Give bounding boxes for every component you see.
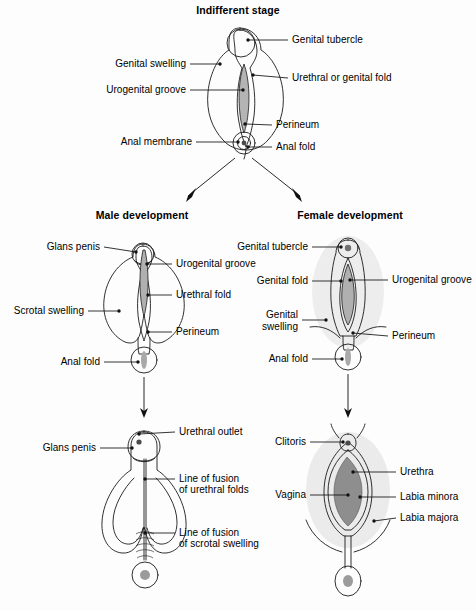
- label-labia-minora: Labia minora: [400, 491, 459, 502]
- raphe-hatching: [136, 532, 154, 558]
- label-line-fusion-scrotal-1: Line of fusion: [179, 527, 239, 538]
- male-urogenital-groove-shape: [140, 250, 148, 316]
- label-perineum: Perineum: [276, 119, 319, 130]
- label-female-anal-fold: Anal fold: [269, 353, 308, 364]
- diagram-canvas: Indifferent stage Genital tubercle: [0, 0, 476, 611]
- male-mature-annotations: Urethral outlet Glans penis Line of fusi…: [43, 426, 259, 549]
- branch-arrows: [186, 158, 302, 202]
- female-development-figure: [310, 236, 386, 370]
- label-female-urogenital-groove: Urogenital groove: [392, 274, 472, 285]
- label-male-perineum: Perineum: [176, 326, 219, 337]
- panel-title-male-development: Male development: [96, 209, 189, 221]
- label-female-genital-swelling-line1: Genital: [266, 309, 298, 320]
- label-female-genital-tubercle: Genital tubercle: [237, 241, 308, 252]
- male-development-figure: [104, 243, 185, 373]
- genital-tubercle-shape: [227, 29, 255, 57]
- female-mature-anus-core: [343, 575, 353, 587]
- label-male-urogenital-groove: Urogenital groove: [176, 258, 256, 269]
- panel-title-female-development: Female development: [297, 209, 403, 221]
- indifferent-stage-figure: [208, 28, 284, 159]
- clitoris-center: [345, 440, 350, 445]
- male-development-annotations: Glans penis Urogenital groove Urethral f…: [14, 241, 256, 367]
- label-labia-majora: Labia majora: [400, 512, 459, 523]
- label-line-fusion-scrotal-2: of scrotal swelling: [179, 538, 259, 549]
- label-female-genital-swelling-line2: swelling: [262, 321, 298, 332]
- label-clitoris: Clitoris: [275, 436, 306, 447]
- label-female-perineum: Perineum: [392, 330, 435, 341]
- label-line-fusion-urethral-1: Line of fusion: [179, 473, 239, 484]
- label-vagina: Vagina: [275, 489, 306, 500]
- label-anal-membrane: Anal membrane: [121, 136, 193, 147]
- male-mature-anus-core: [140, 570, 150, 580]
- label-male-urethral-fold: Urethral fold: [176, 289, 231, 300]
- label-female-genital-fold: Genital fold: [257, 275, 308, 286]
- label-mature-glans-penis: Glans penis: [43, 442, 96, 453]
- label-urogenital-groove: Urogenital groove: [106, 84, 186, 95]
- female-anus-slit: [345, 348, 351, 366]
- label-urethral-outlet: Urethral outlet: [179, 426, 243, 437]
- label-line-fusion-urethral-2: of urethral folds: [179, 484, 249, 495]
- label-male-glans-penis: Glans penis: [47, 241, 100, 252]
- progression-arrows: [140, 374, 352, 418]
- label-scrotal-swelling: Scrotal swelling: [14, 305, 84, 316]
- mature-glans-shape: [128, 431, 160, 461]
- label-genital-tubercle: Genital tubercle: [292, 34, 363, 45]
- male-mature-figure: [102, 431, 186, 588]
- male-anus-slit: [141, 351, 147, 369]
- label-urethra: Urethra: [400, 466, 434, 477]
- label-male-anal-fold: Anal fold: [61, 356, 100, 367]
- anal-membrane-center: [242, 141, 247, 146]
- scrotal-inner-contour-right: [147, 478, 177, 544]
- label-urethral-or-genital-fold: Urethral or genital fold: [292, 72, 392, 83]
- label-anal-fold: Anal fold: [276, 141, 315, 152]
- female-mature-figure: [306, 424, 390, 596]
- scrotal-inner-contour-left: [113, 478, 143, 544]
- label-genital-swelling: Genital swelling: [115, 58, 186, 69]
- genital-development-figure: Indifferent stage Genital tubercle: [0, 0, 476, 611]
- female-tubercle-center: [345, 245, 351, 251]
- urethral-outlet-shape: [136, 439, 141, 444]
- panel-title-indifferent: Indifferent stage: [196, 4, 279, 16]
